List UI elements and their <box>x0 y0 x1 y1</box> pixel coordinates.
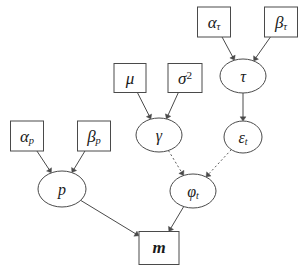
node-p-ellipse <box>38 171 86 207</box>
edge-alpha_p-to-p <box>37 151 50 170</box>
node-tau-ellipse <box>220 59 266 93</box>
arrowhead-tau-to-epsilon_t <box>240 117 246 121</box>
node-mu-rect <box>114 64 146 93</box>
edge-gamma-to-phi_t <box>168 151 182 173</box>
arrowhead-gamma-to-phi_t <box>179 170 184 175</box>
edge-beta_tau-to-tau <box>255 37 270 58</box>
node-layer <box>11 7 298 265</box>
node-sigma_squared-rect <box>168 64 202 93</box>
edge-mu-to-gamma <box>137 93 149 117</box>
node-epsilon_t-ellipse <box>224 121 262 153</box>
node-gamma-ellipse <box>136 118 182 152</box>
edge-alpha_tau-to-tau <box>222 37 233 57</box>
node-beta_p-rect <box>78 121 111 151</box>
edge-p-to-m <box>81 200 137 234</box>
edge-sigma_sq-to-gamma <box>168 93 179 116</box>
node-alpha_tau-rect <box>198 7 231 37</box>
edge-beta_p-to-p <box>74 151 85 170</box>
edge-epsilon_t-to-phi_t <box>208 150 231 175</box>
graph-canvas <box>0 0 308 271</box>
node-beta_tau-rect <box>265 7 298 37</box>
node-phi_t-ellipse <box>170 174 216 208</box>
node-m-rect <box>139 232 179 265</box>
graphical-model-figure: ατβττμσ2γεtαpβppφtm <box>0 0 308 271</box>
node-alpha_p-rect <box>11 121 44 151</box>
edge-phi_t-to-m <box>170 207 183 229</box>
arrowhead-beta_tau-to-tau <box>254 56 259 61</box>
